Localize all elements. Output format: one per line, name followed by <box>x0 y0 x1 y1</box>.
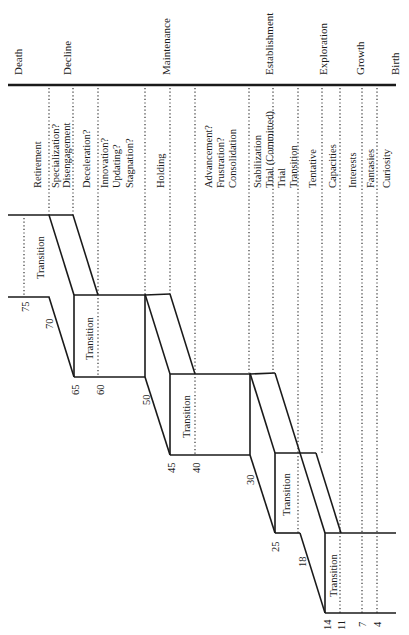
substage-stabilization: Stabilization <box>252 134 263 188</box>
stage-structure <box>8 215 396 613</box>
substage-disengagement: Disengagement <box>61 123 72 188</box>
substage-labels: Retirement Specialization? Disengagement… <box>32 111 392 188</box>
life-career-stages-diagram: Death Decline Maintenance Establishment … <box>0 0 409 635</box>
substage-dividers <box>24 88 377 613</box>
substage-trial: Trial <box>276 168 287 188</box>
age-25: 25 <box>270 542 281 553</box>
stage-label-establishment: Establishment <box>263 13 275 75</box>
substage-advancement: Advancement? <box>203 125 214 188</box>
substage-innovation: Innovation? <box>99 138 110 188</box>
substage-trial-committed: Trial (Committed) <box>264 111 276 188</box>
stage-labels: Death Decline Maintenance Establishment … <box>12 13 401 75</box>
substage-capacities: Capacities <box>327 144 338 188</box>
age-75: 75 <box>20 302 31 313</box>
age-70: 70 <box>44 319 55 330</box>
age-50: 50 <box>141 395 152 406</box>
transition-label: Transition <box>328 553 339 597</box>
transition-label: Transition <box>35 235 46 279</box>
substage-specialization: Specialization? <box>50 124 61 188</box>
substage-stagnation: Stagnation? <box>124 138 135 188</box>
stage-label-growth: Growth <box>354 41 366 75</box>
substage-fantasies: Fantasies <box>365 149 376 188</box>
age-4: 4 <box>372 621 383 627</box>
age-30: 30 <box>245 475 256 486</box>
substage-transition: Transition <box>288 144 299 188</box>
age-7: 7 <box>357 622 368 627</box>
substage-holding: Holding <box>155 153 166 188</box>
substage-consolidation: Consolidation <box>227 128 238 188</box>
age-18: 18 <box>297 557 308 568</box>
stage-label-decline: Decline <box>61 41 73 75</box>
transition-labels: Transition Transition Transition Transit… <box>35 235 339 597</box>
substage-deceleration: Deceleration? <box>81 129 92 188</box>
age-45: 45 <box>166 463 177 474</box>
stage-label-exploration: Exploration <box>317 23 329 75</box>
substage-retirement: Retirement <box>32 141 43 188</box>
substage-curiosity: Curiosity <box>381 148 392 188</box>
transition-label: Transition <box>281 472 292 516</box>
stage-label-death: Death <box>12 48 24 75</box>
substage-updating: Updating? <box>111 144 122 188</box>
age-11: 11 <box>336 620 347 630</box>
stage-label-maintenance: Maintenance <box>160 18 172 75</box>
stage-label-birth: Birth <box>389 52 401 75</box>
transition-label: Transition <box>84 316 95 360</box>
transition-label: Transition <box>181 394 192 438</box>
substage-interests: Interests <box>347 152 358 188</box>
age-65: 65 <box>70 385 81 396</box>
age-60: 60 <box>95 385 106 396</box>
age-14: 14 <box>322 619 333 630</box>
age-40: 40 <box>191 463 202 474</box>
substage-tentative: Tentative <box>307 149 318 188</box>
substage-frustration: Frustration? <box>215 137 226 188</box>
